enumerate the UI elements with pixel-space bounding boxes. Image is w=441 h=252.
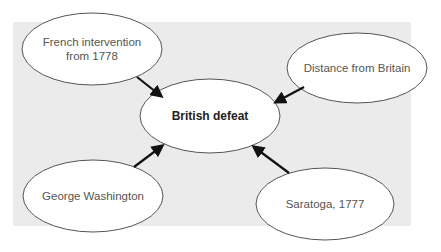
node-label: Distance from Britain — [304, 61, 411, 75]
node-label: British defeat — [172, 109, 249, 123]
node-british-defeat: British defeat — [140, 79, 280, 153]
node-label: French intervention from 1778 — [32, 35, 152, 63]
node-label: Saratoga, 1777 — [286, 197, 365, 211]
node-george-washington: George Washington — [23, 160, 163, 232]
node-label: George Washington — [42, 189, 144, 203]
node-saratoga: Saratoga, 1777 — [256, 168, 394, 240]
node-french-intervention: French intervention from 1778 — [22, 13, 162, 85]
node-distance-from-britain: Distance from Britain — [287, 33, 427, 103]
